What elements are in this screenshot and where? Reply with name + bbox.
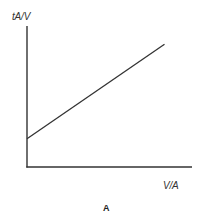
data-line — [27, 44, 165, 138]
x-axis-label: V/A — [163, 180, 179, 191]
figure-caption: A — [103, 203, 110, 213]
y-axis-label: tA/V — [12, 11, 30, 22]
